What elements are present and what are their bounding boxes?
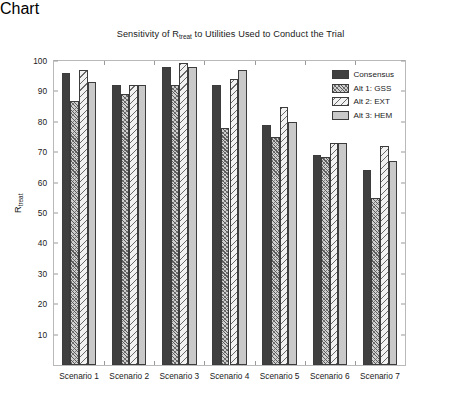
legend-swatch-alt1-gss bbox=[332, 84, 349, 93]
y-tick-mark-right-100 bbox=[401, 61, 405, 62]
y-tick-mark-right-30 bbox=[401, 273, 405, 274]
bar-scenario-7-consensus bbox=[363, 170, 372, 365]
chart-legend: Consensus Alt 1: GSS Alt 2: EXT Alt 3: H… bbox=[328, 66, 400, 124]
y-tick-label-80: 80 bbox=[38, 117, 54, 127]
y-tick-mark-30 bbox=[54, 273, 58, 274]
y-tick-label-50: 50 bbox=[38, 208, 54, 218]
legend-label-alt1-gss: Alt 1: GSS bbox=[354, 84, 392, 93]
chart-title-pre: Sensitivity of R bbox=[117, 29, 179, 39]
bar-scenario-1-alt-3-hem bbox=[88, 82, 97, 365]
y-tick-mark-100 bbox=[54, 61, 58, 62]
x-tick-label-5: Scenario 5 bbox=[260, 371, 300, 381]
y-tick-mark-90 bbox=[54, 91, 58, 92]
x-tick-mark-top-6 bbox=[355, 61, 356, 65]
bar-scenario-4-alt-3-hem bbox=[238, 70, 247, 365]
y-tick-label-100: 100 bbox=[33, 56, 54, 66]
bar-scenario-4-consensus bbox=[212, 85, 221, 365]
bar-scenario-4-alt-1-gss bbox=[221, 128, 230, 365]
y-tick-label-60: 60 bbox=[38, 178, 54, 188]
x-tick-label-7: Scenario 7 bbox=[360, 371, 400, 381]
legend-label-consensus: Consensus bbox=[354, 70, 395, 79]
bar-scenario-3-alt-1-gss bbox=[171, 85, 180, 365]
x-tick-mark-3 bbox=[204, 361, 205, 365]
y-tick-label-20: 20 bbox=[38, 299, 54, 309]
bar-scenario-6-consensus bbox=[313, 155, 322, 365]
y-tick-label-30: 30 bbox=[38, 269, 54, 279]
y-tick-mark-20 bbox=[54, 304, 58, 305]
bar-scenario-1-consensus bbox=[62, 73, 71, 365]
bar-scenario-2-alt-1-gss bbox=[121, 94, 130, 365]
legend-swatch-consensus bbox=[332, 70, 349, 79]
legend-item-alt3-hem[interactable]: Alt 3: HEM bbox=[332, 111, 395, 120]
y-tick-mark-50 bbox=[54, 213, 58, 214]
bar-scenario-1-alt-1-gss bbox=[70, 101, 79, 365]
bar-scenario-2-alt-3-hem bbox=[138, 85, 147, 365]
bar-scenario-5-alt-2-ext bbox=[280, 107, 289, 365]
y-tick-label-10: 10 bbox=[38, 330, 54, 340]
chart-title-post: to Utilities Used to Conduct the Trial bbox=[192, 29, 345, 39]
y-tick-mark-80 bbox=[54, 121, 58, 122]
y-tick-mark-10 bbox=[54, 334, 58, 335]
x-tick-mark-top-4 bbox=[255, 61, 256, 65]
bar-scenario-4-alt-2-ext bbox=[230, 79, 239, 365]
y-axis-label-main: R bbox=[13, 206, 23, 213]
y-tick-mark-40 bbox=[54, 243, 58, 244]
y-tick-mark-right-60 bbox=[401, 182, 405, 183]
x-tick-mark-top-1 bbox=[104, 61, 105, 65]
bar-scenario-6-alt-2-ext bbox=[330, 143, 339, 365]
y-tick-mark-right-90 bbox=[401, 91, 405, 92]
y-tick-mark-60 bbox=[54, 182, 58, 183]
y-tick-mark-right-80 bbox=[401, 121, 405, 122]
bar-scenario-3-alt-2-ext bbox=[179, 63, 188, 365]
x-tick-mark-top-2 bbox=[154, 61, 155, 65]
chart-title: Sensitivity of Rtreat to Utilities Used … bbox=[0, 29, 461, 40]
bar-scenario-7-alt-3-hem bbox=[389, 161, 398, 365]
bar-scenario-5-consensus bbox=[262, 125, 271, 365]
y-tick-mark-right-50 bbox=[401, 213, 405, 214]
y-tick-label-40: 40 bbox=[38, 238, 54, 248]
y-tick-mark-right-10 bbox=[401, 334, 405, 335]
bar-scenario-5-alt-3-hem bbox=[288, 122, 297, 365]
legend-item-alt1-gss[interactable]: Alt 1: GSS bbox=[332, 84, 395, 93]
x-tick-mark-top-5 bbox=[305, 61, 306, 65]
legend-item-consensus[interactable]: Consensus bbox=[332, 70, 395, 79]
bar-scenario-2-alt-2-ext bbox=[129, 85, 138, 365]
legend-item-alt2-ext[interactable]: Alt 2: EXT bbox=[332, 97, 395, 106]
x-tick-mark-6 bbox=[355, 361, 356, 365]
bar-scenario-7-alt-2-ext bbox=[380, 146, 389, 365]
legend-label-alt2-ext: Alt 2: EXT bbox=[354, 97, 390, 106]
legend-label-alt3-hem: Alt 3: HEM bbox=[354, 111, 393, 120]
x-tick-label-3: Scenario 3 bbox=[160, 371, 200, 381]
bar-scenario-5-alt-1-gss bbox=[271, 137, 280, 365]
y-tick-label-70: 70 bbox=[38, 147, 54, 157]
legend-swatch-alt3-hem bbox=[332, 111, 349, 120]
bar-scenario-3-alt-3-hem bbox=[188, 67, 197, 365]
x-tick-label-4: Scenario 4 bbox=[210, 371, 250, 381]
legend-swatch-alt2-ext bbox=[332, 97, 349, 106]
bar-scenario-3-consensus bbox=[162, 67, 171, 365]
y-axis-label: Rtreat bbox=[13, 194, 24, 213]
x-tick-mark-1 bbox=[104, 361, 105, 365]
bar-scenario-2-consensus bbox=[112, 85, 121, 365]
y-tick-label-90: 90 bbox=[38, 86, 54, 96]
x-tick-mark-2 bbox=[154, 361, 155, 365]
y-tick-mark-right-40 bbox=[401, 243, 405, 244]
x-tick-label-2: Scenario 2 bbox=[109, 371, 149, 381]
figure-canvas: Sensitivity of Rtreat to Utilities Used … bbox=[0, 18, 461, 398]
bar-scenario-7-alt-1-gss bbox=[371, 198, 380, 365]
y-tick-mark-right-70 bbox=[401, 152, 405, 153]
x-tick-mark-5 bbox=[305, 361, 306, 365]
bar-scenario-6-alt-3-hem bbox=[338, 143, 347, 365]
y-tick-mark-right-20 bbox=[401, 304, 405, 305]
chart-title-subscript: treat bbox=[179, 33, 192, 40]
x-tick-label-6: Scenario 6 bbox=[310, 371, 350, 381]
y-tick-mark-70 bbox=[54, 152, 58, 153]
x-tick-mark-4 bbox=[255, 361, 256, 365]
bar-scenario-6-alt-1-gss bbox=[321, 157, 330, 365]
y-axis-label-subscript: treat bbox=[17, 194, 24, 207]
plot-area: 102030405060708090100Scenario 1Scenario … bbox=[53, 60, 406, 366]
x-tick-label-1: Scenario 1 bbox=[59, 371, 99, 381]
bar-scenario-1-alt-2-ext bbox=[79, 70, 88, 365]
x-tick-mark-top-3 bbox=[204, 61, 205, 65]
